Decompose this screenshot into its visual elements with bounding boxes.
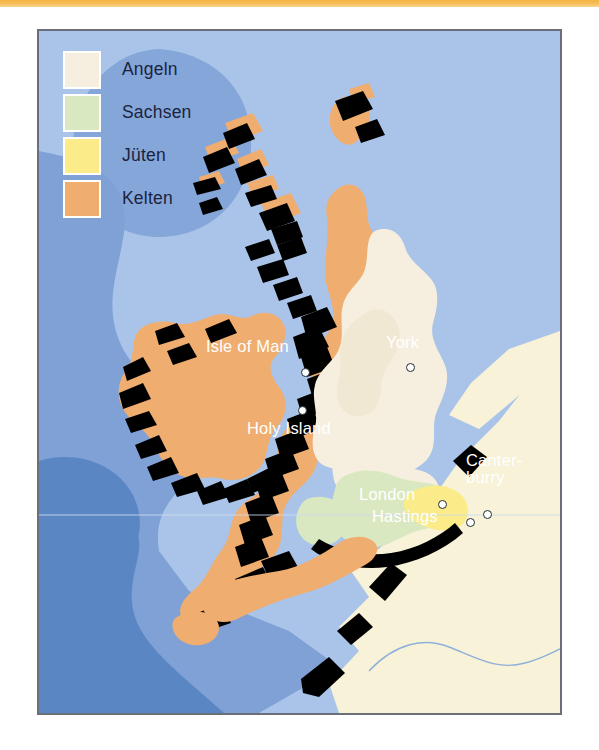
legend-item-sachsen: Sachsen (63, 91, 192, 134)
legend-label-kelten: Kelten (122, 188, 173, 209)
page-top-rule (0, 0, 599, 7)
legend-label-angeln: Angeln (122, 59, 178, 80)
city-label-hastings: Hastings (372, 508, 438, 525)
legend-item-angeln: Angeln (63, 48, 192, 91)
city-label-canterburry: Canter- burry (466, 452, 522, 487)
legend-swatch-angeln (63, 51, 101, 89)
legend-swatch-sachsen (63, 94, 101, 132)
city-marker-isle-of-man[interactable] (301, 368, 310, 377)
legend-label-jueten: Jüten (122, 145, 166, 166)
legend-item-jueten: Jüten (63, 134, 192, 177)
city-label-holy-island: Holy Island (247, 420, 331, 437)
map-legend: Angeln Sachsen Jüten Kelten (63, 48, 192, 220)
city-marker-york[interactable] (406, 363, 415, 372)
city-label-york: York (386, 334, 419, 351)
legend-item-kelten: Kelten (63, 177, 192, 220)
legend-swatch-kelten (63, 180, 101, 218)
city-marker-holy-island[interactable] (298, 406, 307, 415)
city-label-london: London (359, 486, 415, 503)
city-marker-canterburry[interactable] (483, 510, 492, 519)
city-marker-hastings[interactable] (466, 518, 475, 527)
legend-swatch-jueten (63, 137, 101, 175)
map-figure: Angeln Sachsen Jüten Kelten Isle of Man … (37, 29, 562, 715)
city-marker-london[interactable] (438, 500, 447, 509)
legend-label-sachsen: Sachsen (122, 102, 192, 123)
city-label-isle-of-man: Isle of Man (206, 338, 289, 355)
